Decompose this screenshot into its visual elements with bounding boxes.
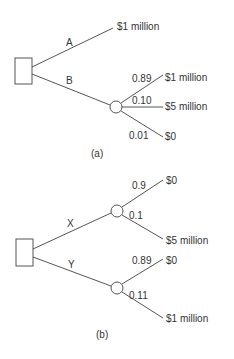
probability-label: 0.10 (132, 95, 152, 106)
diagram-b: X Y 0.9 $0 0.1 $5 million 0.89 $0 0.11 $… (16, 175, 208, 340)
branch-label-x: X (67, 218, 74, 229)
outcome-label: $1 million (166, 313, 208, 324)
probability-label: 0.1 (129, 210, 143, 221)
outcome-label: $0 (166, 255, 178, 266)
outcome-label: $5 million (165, 101, 207, 112)
probability-label: 0.89 (132, 255, 152, 266)
branch-label-b: B (66, 75, 73, 86)
caption-a: (a) (91, 148, 103, 159)
outcome-label: $1 million (165, 72, 207, 83)
decision-node-square (15, 58, 32, 84)
probability-label: 0.9 (132, 180, 146, 191)
decision-node-square (16, 239, 33, 266)
chance-node-circle (111, 282, 123, 294)
probability-label: 0.01 (129, 130, 149, 141)
outcome-label: $0 (165, 131, 177, 142)
branch-label-y: Y (68, 259, 75, 270)
outcome-label: $1 million (117, 21, 159, 32)
diagram-a: A $1 million B 0.89 $1 million 0.10 $5 m… (15, 21, 207, 159)
branch-label-a: A (66, 37, 73, 48)
outcome-label: $5 million (166, 235, 208, 246)
caption-b: (b) (96, 329, 108, 340)
outcome-label: $0 (166, 175, 178, 186)
probability-label: 0.89 (132, 73, 152, 84)
chance-node-circle (110, 101, 122, 113)
probability-label: 0.11 (129, 290, 148, 301)
decision-trees: A $1 million B 0.89 $1 million 0.10 $5 m… (0, 0, 234, 359)
chance-node-circle (111, 205, 123, 217)
